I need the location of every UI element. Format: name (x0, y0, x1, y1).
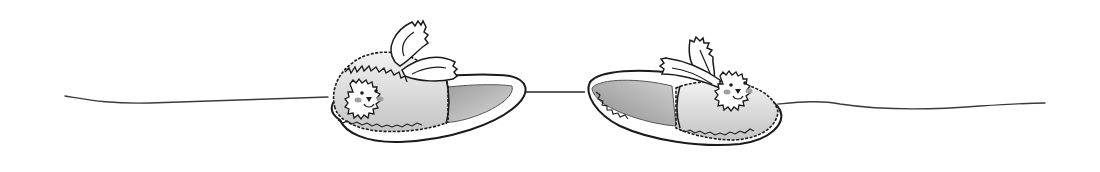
right-slipper (588, 37, 781, 145)
ground-line (65, 92, 1045, 109)
left-slipper (332, 21, 526, 142)
slippers-illustration: Pencil-and-ink sketch of a pair of bunny… (0, 0, 1100, 172)
